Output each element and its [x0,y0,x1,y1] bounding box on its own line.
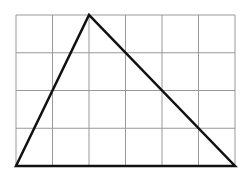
grid-triangle-diagram [0,0,249,180]
grid [16,15,235,166]
